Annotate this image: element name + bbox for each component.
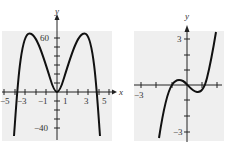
right-tick-label-x-neg3: −3 — [134, 90, 144, 100]
left-x-arrow-icon — [112, 90, 117, 95]
left-tick-label-x-5: 5 — [102, 96, 107, 106]
left-tick-label-60: 60 — [40, 33, 50, 43]
right-tick-label-3: 3 — [177, 34, 182, 44]
left-tick-label-x-1: 1 — [63, 96, 68, 106]
left-y-axis-label: y — [54, 6, 59, 16]
charts-canvas: y x 60 −40 −5 −3 −1 1 3 5 y 3 — [0, 0, 227, 148]
right-y-arrow-icon — [185, 25, 190, 32]
left-x-axis-label: x — [118, 87, 123, 97]
left-tick-label-neg40: −40 — [34, 123, 49, 133]
left-tick-label-x-3: 3 — [84, 96, 89, 106]
left-tick-label-x-neg1: −1 — [38, 96, 48, 106]
left-tick-label-x-neg3: −3 — [17, 96, 27, 106]
left-tick-label-x-neg5: −5 — [0, 96, 10, 106]
right-y-axis-label: y — [184, 11, 189, 21]
right-tick-label-neg3: −3 — [173, 127, 183, 137]
left-graph: y x 60 −40 −5 −3 −1 1 3 5 — [0, 6, 123, 141]
right-graph: y 3 −3 −3 — [134, 11, 224, 142]
right-panel-background — [134, 31, 224, 141]
